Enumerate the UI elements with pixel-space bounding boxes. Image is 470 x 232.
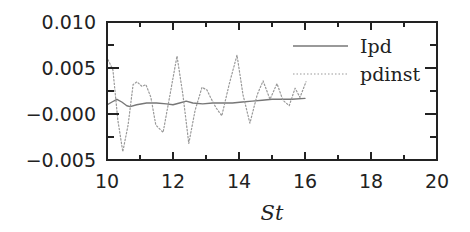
x-tick-label: 18 <box>359 170 383 192</box>
plot-series <box>107 55 306 152</box>
x-axis-tick-labels: 101214161820 <box>95 170 449 192</box>
y-tick-label: −0.005 <box>26 149 96 171</box>
x-tick-label: 12 <box>161 170 185 192</box>
x-tick-label: 14 <box>227 170 251 192</box>
x-axis-title: St <box>261 201 284 225</box>
line-chart: 101214161820 −0.005−0.0000.0050.010 St I… <box>0 0 470 232</box>
legend-label-ipd: Ipd <box>360 35 392 57</box>
y-tick-label: 0.005 <box>42 57 96 79</box>
legend: Ipd pdinst <box>293 35 420 85</box>
legend-label-pdinst: pdinst <box>360 63 420 85</box>
x-tick-label: 10 <box>95 170 119 192</box>
x-tick-label: 20 <box>425 170 449 192</box>
y-tick-label: 0.010 <box>42 11 96 33</box>
x-tick-label: 16 <box>293 170 317 192</box>
series-line-ipd <box>107 98 305 106</box>
y-axis-tick-labels: −0.005−0.0000.0050.010 <box>26 11 96 171</box>
y-tick-label: −0.000 <box>26 103 96 125</box>
